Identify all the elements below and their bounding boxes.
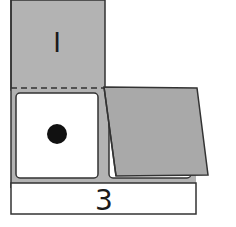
folded-flap [104, 87, 208, 176]
top-panel-label: I [53, 28, 61, 58]
fold-diagram: I 3 [0, 0, 236, 227]
dot-icon [47, 124, 67, 144]
bottom-label: 3 [95, 184, 113, 217]
